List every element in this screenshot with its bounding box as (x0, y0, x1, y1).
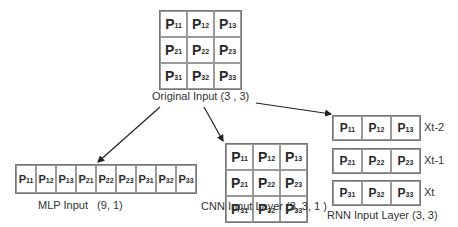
cell-symbol: P (178, 173, 185, 185)
cell-p11: P11 (160, 11, 187, 37)
rnn-cell: P32 (362, 181, 391, 205)
cell-index: 22 (106, 177, 114, 184)
cell-p13: P13 (214, 11, 241, 37)
cell-index: 12 (377, 126, 385, 133)
cell-symbol: P (98, 173, 105, 185)
cell-index: 11 (174, 22, 181, 29)
mlp-cell: P11 (16, 165, 36, 193)
cell-index: 13 (228, 22, 236, 29)
cnn-cell: P13 (280, 144, 307, 170)
rnn-time-label-t-2: Xt-2 (424, 121, 444, 133)
cell-symbol: P (258, 175, 267, 191)
cell-symbol: P (138, 173, 145, 185)
cell-p22: P22 (187, 37, 214, 63)
cell-index: 32 (166, 177, 174, 184)
cell-symbol: P (158, 173, 165, 185)
mlp-input-label: MLP Input (9, 1) (38, 199, 123, 211)
rnn-cell: P33 (391, 181, 420, 205)
cell-index: 31 (348, 191, 356, 198)
cell-p32: P32 (187, 63, 214, 89)
cnn-cell: P12 (253, 144, 280, 170)
cell-symbol: P (219, 16, 228, 32)
arrow-to-mlp (98, 107, 160, 162)
cell-index: 11 (240, 155, 247, 162)
mlp-input-row: P11 P12 P13 P21 P22 P23 P31 P32 P33 (15, 164, 197, 194)
cell-symbol: P (369, 121, 377, 135)
cell-index: 11 (348, 126, 355, 133)
cell-symbol: P (165, 68, 174, 84)
cell-p23: P23 (214, 37, 241, 63)
cell-symbol: P (19, 173, 26, 185)
cell-symbol: P (192, 68, 201, 84)
cell-symbol: P (78, 173, 85, 185)
cell-index: 21 (86, 177, 94, 184)
cell-symbol: P (340, 121, 348, 135)
rnn-cell: P31 (333, 181, 362, 205)
cell-index: 33 (186, 177, 194, 184)
cell-symbol: P (231, 149, 240, 165)
rnn-row-t: P31 P32 P33 (332, 180, 421, 206)
cell-index: 33 (228, 74, 236, 81)
cell-p21: P21 (160, 37, 187, 63)
cell-p12: P12 (187, 11, 214, 37)
cnn-cell: P21 (226, 170, 253, 196)
arrow-to-cnn (204, 107, 223, 141)
cell-index: 13 (294, 155, 302, 162)
cell-symbol: P (398, 186, 406, 200)
cell-index: 23 (406, 159, 414, 166)
cell-symbol: P (219, 68, 228, 84)
rnn-cell: P12 (362, 116, 391, 140)
cell-symbol: P (285, 175, 294, 191)
mlp-cell: P33 (176, 165, 196, 193)
mlp-cell: P23 (116, 165, 136, 193)
cell-symbol: P (369, 154, 377, 168)
cell-symbol: P (192, 16, 201, 32)
cell-index: 21 (348, 159, 356, 166)
cell-index: 22 (377, 159, 385, 166)
cell-symbol: P (38, 173, 45, 185)
cell-index: 12 (46, 177, 54, 184)
rnn-cell: P22 (362, 149, 391, 173)
cell-index: 22 (267, 181, 275, 188)
cell-symbol: P (231, 175, 240, 191)
cell-symbol: P (165, 42, 174, 58)
cell-p31: P31 (160, 63, 187, 89)
cell-index: 13 (66, 177, 74, 184)
cell-p33: P33 (214, 63, 241, 89)
cell-index: 23 (294, 181, 302, 188)
rnn-row-t-2: P11 P12 P13 (332, 115, 421, 141)
cell-symbol: P (258, 149, 267, 165)
cell-index: 12 (201, 22, 209, 29)
cell-index: 33 (406, 191, 414, 198)
cell-symbol: P (369, 186, 377, 200)
cell-index: 21 (240, 181, 248, 188)
cell-index: 23 (126, 177, 134, 184)
rnn-time-label-t: Xt (424, 186, 434, 198)
rnn-cell: P13 (391, 116, 420, 140)
cell-symbol: P (219, 42, 228, 58)
arrow-to-rnn (256, 103, 331, 114)
rnn-time-label-t-1: Xt-1 (424, 154, 444, 166)
cell-index: 32 (201, 74, 209, 81)
original-input-grid: P11 P12 P13 P21 P22 P23 P31 P32 P33 (159, 10, 242, 90)
cell-symbol: P (340, 154, 348, 168)
cell-index: 32 (377, 191, 385, 198)
cell-symbol: P (192, 42, 201, 58)
cnn-cell: P11 (226, 144, 253, 170)
cell-symbol: P (398, 121, 406, 135)
cell-symbol: P (340, 186, 348, 200)
cnn-input-label: CNN Input Layer (3, 3, 1 ) (201, 200, 327, 212)
cell-index: 21 (174, 48, 182, 55)
mlp-cell: P13 (56, 165, 76, 193)
cell-symbol: P (58, 173, 65, 185)
original-input-label: Original Input (3 , 3) (152, 90, 249, 102)
cell-symbol: P (285, 149, 294, 165)
cell-symbol: P (118, 173, 125, 185)
cell-symbol: P (165, 16, 174, 32)
cell-index: 11 (26, 177, 33, 184)
rnn-cell: P21 (333, 149, 362, 173)
cell-index: 13 (406, 126, 414, 133)
rnn-cell: P23 (391, 149, 420, 173)
rnn-cell: P11 (333, 116, 362, 140)
mlp-cell: P21 (76, 165, 96, 193)
